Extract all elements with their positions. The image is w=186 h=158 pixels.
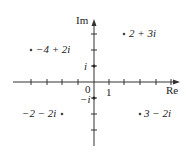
re-axis-label: Re xyxy=(166,85,178,96)
complex-plane xyxy=(0,0,186,158)
point-2-plus-3i xyxy=(123,33,126,36)
point-neg-i xyxy=(92,96,95,99)
im-axis-label: Im xyxy=(76,15,88,26)
point-neg4-plus-2i xyxy=(30,49,33,52)
imag-unit-label: i xyxy=(84,61,87,72)
label-neg4-plus-2i: −4 + 2i xyxy=(36,44,70,55)
imaginary-axis-arrow-icon xyxy=(92,19,97,26)
point-neg2-minus-2i xyxy=(61,113,64,116)
label-3-minus-2i: 3 − 2i xyxy=(144,108,171,119)
neg-imag-unit-label: −i xyxy=(80,94,90,105)
label-2-plus-3i: 2 + 3i xyxy=(129,28,156,39)
real-unit-label: 1 xyxy=(106,87,112,98)
point-i xyxy=(92,64,95,67)
label-neg2-minus-2i: −2 − 2i xyxy=(22,108,56,119)
point-3-minus-2i xyxy=(139,113,142,116)
